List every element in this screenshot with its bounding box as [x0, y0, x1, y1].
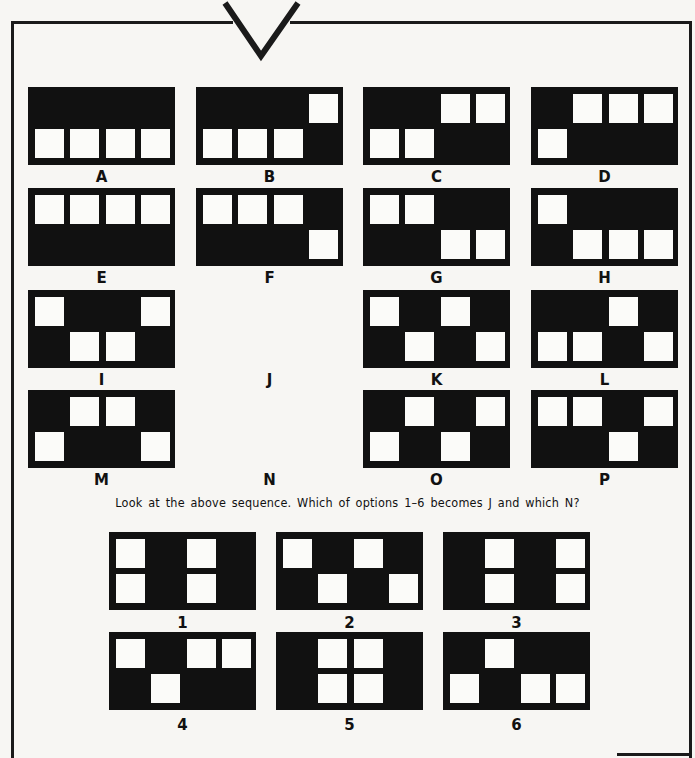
white-square: [222, 639, 251, 668]
sequence-label: C: [363, 168, 510, 186]
white-square: [609, 432, 638, 461]
white-square: [238, 129, 267, 158]
option-label: 6: [443, 716, 590, 734]
white-square: [441, 230, 470, 259]
white-square: [644, 94, 673, 123]
sequence-label: D: [531, 168, 678, 186]
option-panel-1[interactable]: [109, 532, 256, 610]
sequence-panel-k: [363, 290, 510, 368]
sequence-label: F: [196, 269, 343, 287]
white-square: [187, 639, 216, 668]
frame-bottom: [617, 753, 692, 756]
white-square: [370, 297, 399, 326]
white-square: [370, 129, 399, 158]
white-square: [70, 195, 99, 224]
white-square: [318, 674, 347, 703]
white-square: [538, 332, 567, 361]
white-square: [556, 539, 585, 568]
white-square: [187, 539, 216, 568]
white-square: [309, 230, 338, 259]
frame-top-right: [290, 21, 692, 24]
frame-right: [689, 21, 692, 758]
white-square: [106, 129, 135, 158]
sequence-panel-o: [363, 390, 510, 468]
sequence-panel-g: [363, 188, 510, 266]
white-square: [35, 195, 64, 224]
white-square: [141, 432, 170, 461]
frame-top-left: [11, 21, 233, 24]
white-square: [35, 432, 64, 461]
sequence-panel-a: [28, 87, 175, 165]
white-square: [370, 195, 399, 224]
white-square: [318, 639, 347, 668]
sequence-label: G: [363, 269, 510, 287]
white-square: [405, 129, 434, 158]
white-square: [405, 332, 434, 361]
white-square: [538, 397, 567, 426]
white-square: [573, 332, 602, 361]
white-square: [538, 129, 567, 158]
white-square: [521, 674, 550, 703]
sequence-label: M: [28, 471, 175, 489]
option-panel-5[interactable]: [276, 632, 423, 710]
white-square: [441, 94, 470, 123]
white-square: [106, 195, 135, 224]
sequence-label: L: [531, 371, 678, 389]
white-square: [609, 230, 638, 259]
white-square: [106, 332, 135, 361]
sequence-panel-b: [196, 87, 343, 165]
frame-left: [11, 21, 14, 758]
white-square: [354, 539, 383, 568]
chevron-down-icon: [222, 0, 302, 62]
option-label: 3: [443, 614, 590, 632]
sequence-label: H: [531, 269, 678, 287]
white-square: [141, 195, 170, 224]
white-square: [405, 397, 434, 426]
option-panel-6[interactable]: [443, 632, 590, 710]
white-square: [405, 195, 434, 224]
white-square: [609, 297, 638, 326]
option-label: 1: [109, 614, 256, 632]
white-square: [318, 574, 347, 603]
white-square: [476, 332, 505, 361]
sequence-label: O: [363, 471, 510, 489]
sequence-panel-e: [28, 188, 175, 266]
white-square: [35, 129, 64, 158]
option-panel-2[interactable]: [276, 532, 423, 610]
white-square: [476, 94, 505, 123]
question-text: Look at the above sequence. Which of opt…: [0, 495, 695, 510]
sequence-panel-l: [531, 290, 678, 368]
white-square: [70, 397, 99, 426]
sequence-label: A: [28, 168, 175, 186]
white-square: [354, 639, 383, 668]
white-square: [70, 129, 99, 158]
white-square: [283, 539, 312, 568]
white-square: [573, 397, 602, 426]
white-square: [70, 332, 99, 361]
white-square: [556, 674, 585, 703]
white-square: [485, 539, 514, 568]
white-square: [556, 574, 585, 603]
white-square: [274, 129, 303, 158]
white-square: [644, 397, 673, 426]
white-square: [573, 230, 602, 259]
sequence-label: P: [531, 471, 678, 489]
sequence-label: N: [196, 471, 343, 489]
white-square: [238, 195, 267, 224]
white-square: [151, 674, 180, 703]
white-square: [35, 297, 64, 326]
white-square: [116, 639, 145, 668]
white-square: [203, 129, 232, 158]
white-square: [389, 574, 418, 603]
white-square: [450, 674, 479, 703]
option-panel-4[interactable]: [109, 632, 256, 710]
white-square: [274, 195, 303, 224]
option-panel-3[interactable]: [443, 532, 590, 610]
white-square: [538, 195, 567, 224]
white-square: [354, 674, 383, 703]
sequence-label: J: [196, 371, 343, 389]
white-square: [106, 397, 135, 426]
white-square: [309, 94, 338, 123]
sequence-panel-i: [28, 290, 175, 368]
white-square: [644, 230, 673, 259]
